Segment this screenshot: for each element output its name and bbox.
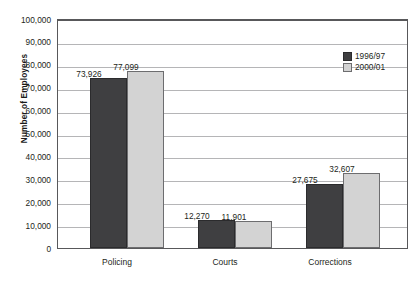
- bar-value-label: 27,675: [286, 176, 324, 184]
- y-tick-label: 40,000: [0, 153, 51, 161]
- gridline: [58, 44, 407, 45]
- y-tick-label: 80,000: [0, 61, 51, 69]
- bar-courts-1996-97: [198, 220, 235, 248]
- y-tick-label: 10,000: [0, 222, 51, 230]
- y-tick-label: 60,000: [0, 107, 51, 115]
- bar-value-label: 12,270: [178, 212, 216, 220]
- y-tick-label: 70,000: [0, 84, 51, 92]
- y-axis-title: Number of Employees: [20, 29, 29, 169]
- legend-swatch-icon: [343, 52, 352, 61]
- bar-value-label: 32,607: [323, 165, 361, 173]
- legend-item-1996-97: 1996/97: [343, 51, 385, 61]
- legend-item-2000-01: 2000/01: [343, 62, 385, 72]
- bar-value-label: 77,099: [107, 63, 145, 71]
- legend-label: 1996/97: [355, 52, 385, 60]
- bar-value-label: 11,901: [215, 213, 253, 221]
- category-label-corrections: Corrections: [300, 258, 360, 267]
- bar-value-label: 73,926: [70, 70, 108, 78]
- bar-courts-2000-01: [235, 221, 272, 248]
- chart-legend: 1996/97 2000/01: [343, 51, 385, 72]
- y-tick-label: 30,000: [0, 176, 51, 184]
- y-tick-label: 100,000: [0, 16, 51, 24]
- category-label-policing: Policing: [89, 258, 145, 267]
- bar-chart: Number of Employees 100,000 90,000 80,00…: [0, 0, 420, 282]
- category-label-courts: Courts: [197, 258, 253, 267]
- legend-label: 2000/01: [355, 63, 385, 71]
- y-tick-label: 50,000: [0, 130, 51, 138]
- y-tick-label: 20,000: [0, 199, 51, 207]
- y-tick-label: 0: [0, 245, 51, 253]
- bar-corrections-2000-01: [343, 173, 380, 248]
- legend-swatch-icon: [343, 63, 352, 72]
- bar-policing-2000-01: [127, 71, 164, 248]
- bar-policing-1996-97: [90, 78, 127, 248]
- y-tick-label: 90,000: [0, 38, 51, 46]
- bar-corrections-1996-97: [306, 184, 343, 248]
